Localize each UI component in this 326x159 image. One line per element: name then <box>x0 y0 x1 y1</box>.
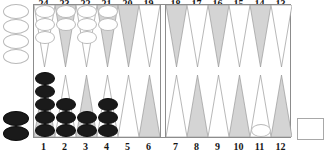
checker-stack[interactable] <box>55 5 76 31</box>
point-number: 9 <box>207 140 228 153</box>
board-point-14[interactable] <box>250 5 271 71</box>
point-number: 1 <box>33 140 54 153</box>
black-bear-off-tray[interactable] <box>2 111 30 141</box>
black-checker[interactable] <box>35 111 55 124</box>
board-point-15[interactable] <box>229 5 250 71</box>
board-point-13[interactable] <box>271 5 292 71</box>
board-point-5[interactable] <box>118 71 139 137</box>
board-point-23[interactable] <box>55 5 76 71</box>
board-point-7[interactable] <box>166 71 187 137</box>
white-checker-off[interactable] <box>3 34 29 49</box>
black-checker[interactable] <box>35 124 55 137</box>
white-checker[interactable] <box>251 124 271 137</box>
black-checker-off[interactable] <box>3 111 29 126</box>
white-checker[interactable] <box>98 18 118 31</box>
board-point-21[interactable] <box>97 5 118 71</box>
checker-stack[interactable] <box>97 5 118 31</box>
black-checker[interactable] <box>56 111 76 124</box>
checker-stack[interactable] <box>76 5 97 44</box>
point-numbers-bottom: 1 2 3 4 5 6 7 8 9 10 11 12 <box>33 140 291 153</box>
board-point-9[interactable] <box>208 71 229 137</box>
board-point-12[interactable] <box>271 71 292 137</box>
white-checker-off[interactable] <box>3 19 29 34</box>
quadrant-bottom-left <box>34 71 160 137</box>
black-checker[interactable] <box>98 111 118 124</box>
point-numbers-bottom-left: 1 2 3 4 5 6 <box>33 140 159 153</box>
checker-stack[interactable] <box>55 98 76 137</box>
board-point-1[interactable] <box>34 71 55 137</box>
board-point-22[interactable] <box>76 5 97 71</box>
white-checker[interactable] <box>56 18 76 31</box>
white-checker[interactable] <box>35 18 55 31</box>
board-surface <box>33 4 291 138</box>
board-point-4[interactable] <box>97 71 118 137</box>
point-number: 4 <box>96 140 117 153</box>
doubling-cube-box[interactable] <box>297 118 324 140</box>
board-point-10[interactable] <box>229 71 250 137</box>
board-point-6[interactable] <box>139 71 160 137</box>
white-checker-off[interactable] <box>3 49 29 64</box>
point-numbers-bottom-right: 7 8 9 10 11 12 <box>165 140 291 153</box>
black-checker[interactable] <box>98 124 118 137</box>
point-number: 3 <box>75 140 96 153</box>
board-point-19[interactable] <box>139 5 160 71</box>
black-checker[interactable] <box>35 98 55 111</box>
point-number: 12 <box>270 140 291 153</box>
black-checker-off[interactable] <box>3 126 29 141</box>
checker-stack[interactable] <box>97 98 118 137</box>
quadrant-top-left <box>34 5 160 71</box>
white-bear-off-tray[interactable] <box>2 4 30 64</box>
black-checker[interactable] <box>35 85 55 98</box>
white-checker[interactable] <box>98 5 118 18</box>
board-point-8[interactable] <box>187 71 208 137</box>
board-point-18[interactable] <box>166 5 187 71</box>
board-point-24[interactable] <box>34 5 55 71</box>
checker-stack[interactable] <box>34 72 55 137</box>
point-number: 10 <box>228 140 249 153</box>
black-checker[interactable] <box>56 124 76 137</box>
point-number: 6 <box>138 140 159 153</box>
board-point-20[interactable] <box>118 5 139 71</box>
quadrant-top-right <box>166 5 292 71</box>
checker-stack[interactable] <box>76 111 97 137</box>
board-point-2[interactable] <box>55 71 76 137</box>
board-bar[interactable] <box>160 5 166 137</box>
backgammon-board: 24 23 22 21 20 19 18 17 16 15 14 13 1 2 … <box>0 0 326 159</box>
white-checker[interactable] <box>77 5 97 18</box>
black-checker[interactable] <box>56 98 76 111</box>
point-number: 11 <box>249 140 270 153</box>
checker-stack[interactable] <box>34 5 55 44</box>
quadrant-bottom-right <box>166 71 292 137</box>
white-checker[interactable] <box>56 5 76 18</box>
white-checker[interactable] <box>77 31 97 44</box>
board-point-11[interactable] <box>250 71 271 137</box>
black-checker[interactable] <box>77 111 97 124</box>
point-number: 7 <box>165 140 186 153</box>
board-point-17[interactable] <box>187 5 208 71</box>
white-checker[interactable] <box>35 5 55 18</box>
point-number: 2 <box>54 140 75 153</box>
black-checker[interactable] <box>35 72 55 85</box>
point-number: 5 <box>117 140 138 153</box>
black-checker[interactable] <box>77 124 97 137</box>
white-checker[interactable] <box>77 18 97 31</box>
board-point-3[interactable] <box>76 71 97 137</box>
point-number: 8 <box>186 140 207 153</box>
white-checker-off[interactable] <box>3 4 29 19</box>
white-checker[interactable] <box>35 31 55 44</box>
board-point-16[interactable] <box>208 5 229 71</box>
black-checker[interactable] <box>98 98 118 111</box>
checker-stack[interactable] <box>250 124 271 137</box>
